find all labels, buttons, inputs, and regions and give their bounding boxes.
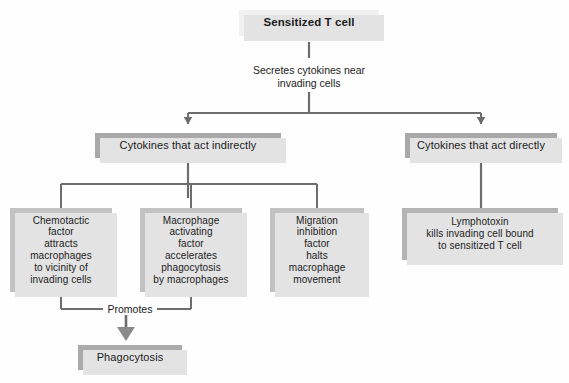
node-cytokines-act-indirectly: Cytokines that act indirectly [95, 133, 281, 158]
edge-label-promotes: Promotes [103, 303, 157, 315]
node-label: Chemotactic factor attracts macrophages … [26, 215, 96, 286]
node-label: Macrophage activating factor accelerates… [149, 215, 232, 286]
node-label: Cytokines that act indirectly [116, 139, 261, 152]
node-sensitized-t-cell: Sensitized T cell [239, 10, 379, 36]
arrowhead-phagocytosis [117, 327, 135, 341]
node-migration-inhibition-factor: Migration inhibition factor halts macrop… [270, 208, 364, 292]
node-lymphotoxin: Lymphotoxin kills invading cell bound to… [402, 208, 558, 260]
node-chemotactic-factor: Chemotactic factor attracts macrophages … [10, 208, 112, 292]
node-label: Cytokines that act directly [413, 139, 549, 152]
node-phagocytosis: Phagocytosis [78, 345, 182, 370]
caption-secretes-cytokines: Secretes cytokines near invading cells [218, 64, 400, 90]
flowchart-canvas: Sensitized T cell Secretes cytokines nea… [0, 0, 569, 383]
node-label: Lymphotoxin kills invading cell bound to… [422, 216, 538, 251]
node-label: Sensitized T cell [259, 16, 358, 30]
connector-lines [0, 0, 569, 383]
node-cytokines-act-directly: Cytokines that act directly [405, 133, 557, 158]
node-macrophage-activating-factor: Macrophage activating factor accelerates… [140, 208, 242, 292]
node-label: Migration inhibition factor halts macrop… [285, 215, 350, 286]
node-label: Phagocytosis [93, 351, 168, 364]
